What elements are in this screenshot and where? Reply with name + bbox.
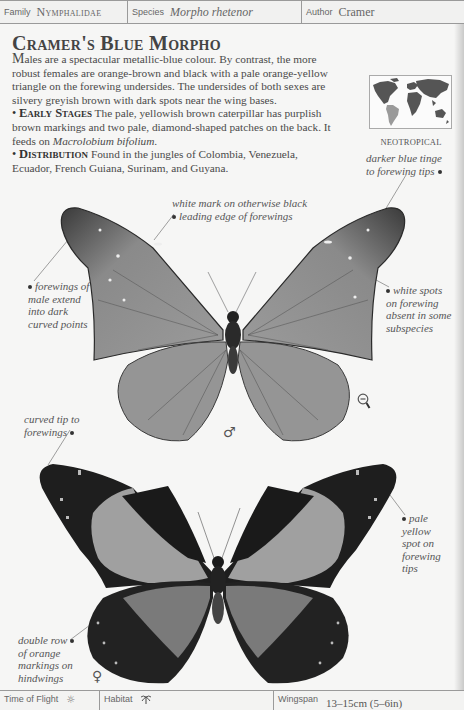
world-map-icon bbox=[370, 76, 451, 128]
family-label: Family bbox=[4, 7, 31, 17]
habitat-label: Habitat bbox=[104, 694, 133, 704]
intro-lead-letter: M bbox=[12, 51, 24, 66]
intro-text: ales are a spectacular metallic-blue col… bbox=[12, 53, 328, 106]
male-butterfly-illustration bbox=[58, 200, 408, 445]
annotation-darker-tips: darker blue tinge to forewing tips bbox=[366, 152, 445, 177]
early-stages-heading: Early Stages bbox=[19, 106, 92, 120]
palm-tree-icon bbox=[141, 694, 151, 704]
early-stages-paragraph: • Early Stages The pale, yellowish brown… bbox=[12, 107, 338, 148]
species-cell: Species Morpho rhetenor bbox=[128, 1, 302, 23]
annotation-pale-yellow: pale yellow spot on forewing tips bbox=[402, 512, 441, 575]
sun-icon: ☼ bbox=[66, 694, 75, 705]
author-cell: Author Cramer bbox=[302, 1, 464, 23]
species-value: Morpho rhetenor bbox=[170, 5, 253, 20]
intro-paragraph: Males are a spectacular metallic-blue co… bbox=[12, 52, 338, 107]
magnifier-minus-icon bbox=[357, 393, 371, 410]
wingspan-label: Wingspan bbox=[278, 694, 318, 704]
species-label: Species bbox=[132, 7, 164, 17]
family-cell: Family Nymphalidae bbox=[0, 1, 128, 23]
header-bar: Family Nymphalidae Species Morpho rheten… bbox=[0, 0, 464, 24]
description-text: Males are a spectacular metallic-blue co… bbox=[12, 52, 338, 175]
time-of-flight-cell: Time of Flight ☼ bbox=[0, 691, 100, 710]
footer-bar: Time of Flight ☼ Habitat Wingspan 13–15c… bbox=[0, 690, 464, 710]
family-value: Nymphalidae bbox=[37, 5, 102, 20]
page-edge-shadow bbox=[454, 0, 464, 710]
region-label: Neotropical bbox=[370, 137, 452, 147]
habitat-cell: Habitat bbox=[100, 691, 274, 710]
bullet-icon: • bbox=[12, 147, 16, 161]
wingspan-value: 13–15cm (5–6in) bbox=[326, 697, 402, 709]
author-label: Author bbox=[306, 7, 333, 17]
female-symbol: ♀ bbox=[92, 668, 102, 684]
female-butterfly-illustration bbox=[38, 458, 404, 690]
bullet-icon: • bbox=[12, 106, 16, 120]
bullet-dot bbox=[28, 285, 32, 289]
male-symbol: ♂ bbox=[223, 424, 236, 440]
wingspan-cell: Wingspan 13–15cm (5–6in) bbox=[274, 691, 464, 710]
distribution-heading: Distribution bbox=[19, 147, 88, 161]
author-value: Cramer bbox=[339, 5, 375, 20]
bullet-dot bbox=[438, 170, 442, 174]
world-distribution-map bbox=[369, 75, 452, 129]
time-of-flight-label: Time of Flight bbox=[4, 694, 58, 704]
food-plant: Macrolobium bifolium bbox=[53, 135, 155, 147]
distribution-paragraph: • Distribution Found in the jungles of C… bbox=[12, 148, 338, 175]
